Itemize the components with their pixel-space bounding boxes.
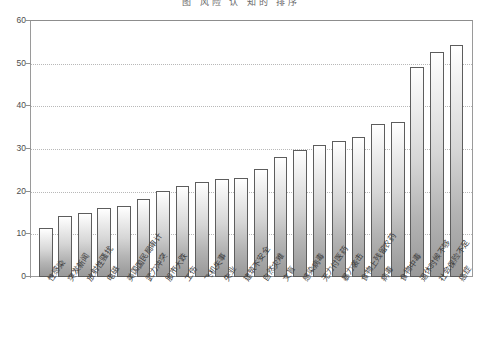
- y-axis-tick-label: 60: [2, 16, 26, 25]
- y-axis-tick-label: 10: [2, 229, 26, 238]
- chart-title: 图 风险 认 知的 排序: [0, 0, 483, 6]
- bar: [410, 67, 424, 277]
- bar: [234, 178, 248, 277]
- bar-series: [31, 21, 472, 277]
- y-axis-tick-label: 40: [2, 101, 26, 110]
- bar: [391, 122, 405, 277]
- bar: [117, 206, 131, 277]
- bar: [293, 150, 307, 278]
- y-axis-tick-label: 0: [2, 272, 26, 281]
- y-axis-labels: 0102030405060: [0, 0, 26, 349]
- y-axis-tick-label: 50: [2, 58, 26, 67]
- y-axis-tick-label: 20: [2, 186, 26, 195]
- y-axis-tick-label: 30: [2, 144, 26, 153]
- bar-chart: 图 风险 认 知的 排序 0102030405060 性感染突发新闻放射性骚扰电…: [0, 0, 483, 349]
- x-axis-labels: 性感染突发新闻放射性骚扰电磁美国国民局审计武力冲突股市大跌工伤飞机失事失业建筑不…: [30, 278, 473, 349]
- bar: [195, 182, 209, 277]
